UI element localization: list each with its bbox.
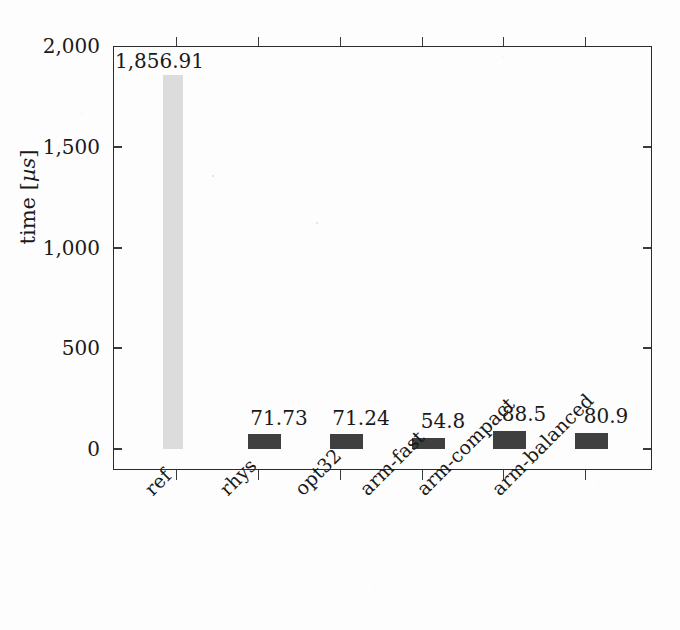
bar-rhys: [248, 434, 281, 449]
y-axis-title: time [µs]: [16, 97, 40, 297]
x-axis-tick-mark: [340, 470, 341, 480]
bar-ref: [163, 75, 183, 449]
y-axis-tick-label: 1,500: [43, 134, 100, 160]
y-axis-tick-label: 0: [87, 436, 100, 462]
x-axis-tick-mark: [176, 470, 177, 480]
bar-arm-compact: [493, 431, 526, 449]
bar-chart-figure: time [µs] 2,000 1,500 1,000 500 0: [0, 0, 680, 630]
x-axis-tick-mark-top: [176, 37, 177, 46]
x-axis-tick-mark-top: [503, 37, 504, 46]
x-axis-tick-mark-top: [422, 37, 423, 46]
y-axis-tick-label: 2,000: [43, 33, 100, 59]
y-axis-title-unit: µs: [16, 158, 40, 182]
x-axis-tick-mark: [585, 470, 586, 480]
x-axis-tick-mark-top: [340, 37, 341, 46]
x-axis-tick-mark-top: [585, 37, 586, 46]
bar-value-ref: 1,856.91: [115, 49, 235, 73]
x-axis-tick-mark-top: [258, 37, 259, 46]
y-axis-title-suffix: ]: [16, 150, 40, 158]
y-axis-tick-label: 1,000: [43, 235, 100, 261]
y-axis-tick-label: 500: [62, 335, 100, 361]
y-axis-title-prefix: time [: [16, 182, 40, 244]
bar-opt32: [330, 434, 363, 449]
bar-arm-balanced: [575, 433, 608, 449]
